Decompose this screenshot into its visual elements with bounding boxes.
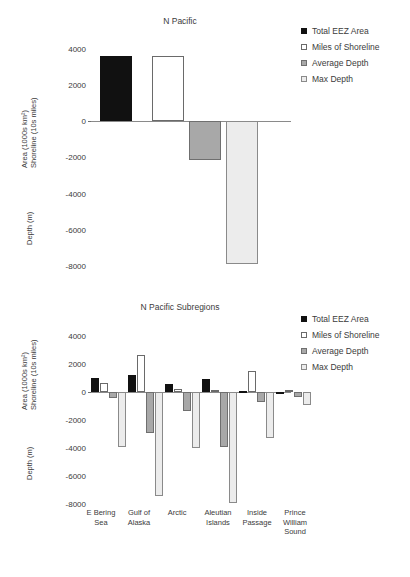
y-axis-label-area-line1: Area (1000s km²) (20, 110, 29, 168)
chart-title-bottom: N Pacific Subregions (100, 302, 260, 312)
legend-swatch-white-icon (301, 44, 307, 50)
y-tick-2000-bottom: 2000 (48, 360, 86, 369)
y-tick-n4000-bottom: -4000 (45, 444, 86, 453)
legend-label: Miles of Shoreline (312, 40, 380, 55)
chart-title-top: N Pacific (100, 16, 260, 26)
bar-miles-of-shoreline-aleutian-islands (211, 390, 219, 392)
legend-item-miles-of-shoreline: Miles of Shoreline (301, 328, 410, 344)
bar-max-depth-e-bering-sea (118, 392, 126, 447)
bar-max-depth-gulf-of-alaska (155, 392, 163, 496)
legend-item-total-eez-area: Total EEZ Area (301, 24, 410, 40)
y-tick-n4000-top: -4000 (45, 190, 86, 199)
bar-average-depth-inside-passage (257, 392, 265, 402)
y-axis-label-area-line2: Shoreline (10s miles) (29, 98, 38, 168)
legend-swatch-gray-icon (301, 60, 307, 66)
legend-item-average-depth: Average Depth (301, 56, 410, 72)
x-axis-label-gulf-of-alaska: Gulf of Alaska (118, 508, 160, 527)
legend-item-total-eez-area: Total EEZ Area (301, 312, 410, 328)
y-axis-label-depth-bottom: Depth (m) (25, 447, 34, 480)
legend-top: Total EEZ Area Miles of Shoreline Averag… (301, 24, 410, 88)
bar-max-depth-n-pacific (226, 121, 258, 264)
y-tick-n2000-top: -2000 (45, 153, 86, 162)
legend-swatch-light-icon (301, 76, 307, 82)
legend-item-max-depth: Max Depth (301, 360, 410, 376)
y-axis-label-area-top: Area (1000s km²) Shoreline (10s miles) (20, 98, 38, 168)
chart-n-pacific: N Pacific Area (1000s km²) Shoreline (10… (0, 0, 410, 290)
x-axis-label-arctic: Arctic (158, 508, 196, 518)
chart-n-pacific-subregions: N Pacific Subregions Area (1000s km²) Sh… (0, 290, 410, 577)
y-tick-4000-top: 4000 (48, 45, 86, 54)
bar-average-depth-e-bering-sea (109, 392, 117, 398)
bar-max-depth-prince-william-sound (303, 392, 311, 405)
bar-miles-of-shoreline-prince-william-sound (285, 390, 293, 392)
legend-label: Miles of Shoreline (312, 328, 380, 343)
legend-item-average-depth: Average Depth (301, 344, 410, 360)
x-axis-label-aleutian-islands: Aleutian Islands (196, 508, 240, 527)
y-tick-0-top: 0 (48, 117, 86, 126)
bar-total-eez-area-aleutian-islands (202, 379, 210, 392)
bar-total-eez-area-n-pacific (100, 56, 132, 121)
legend-label: Average Depth (312, 344, 369, 359)
legend-bottom: Total EEZ Area Miles of Shoreline Averag… (301, 312, 410, 376)
legend-swatch-black-icon (301, 28, 307, 34)
y-tick-0-bottom: 0 (48, 388, 86, 397)
legend-swatch-black-icon (301, 316, 307, 322)
y-tick-4000-bottom: 4000 (48, 332, 86, 341)
bar-average-depth-prince-william-sound (294, 392, 302, 397)
bar-total-eez-area-prince-william-sound (276, 392, 284, 394)
legend-item-max-depth: Max Depth (301, 72, 410, 88)
y-tick-n8000-top: -8000 (45, 262, 86, 271)
bar-total-eez-area-gulf-of-alaska (128, 375, 136, 392)
legend-swatch-white-icon (301, 332, 307, 338)
legend-label: Total EEZ Area (312, 24, 369, 39)
y-axis-label-depth-top: Depth (m) (25, 212, 34, 245)
bar-miles-of-shoreline-n-pacific (152, 56, 184, 121)
bar-miles-of-shoreline-gulf-of-alaska (137, 355, 145, 392)
bar-average-depth-aleutian-islands (220, 392, 228, 447)
x-axis-label-prince-william-sound: Prince William Sound (274, 508, 316, 537)
y-tick-2000-top: 2000 (48, 81, 86, 90)
bar-max-depth-inside-passage (266, 392, 274, 438)
bar-average-depth-arctic (183, 392, 191, 411)
legend-label: Max Depth (312, 360, 353, 375)
bar-total-eez-area-arctic (165, 384, 173, 392)
y-tick-n2000-bottom: -2000 (45, 416, 86, 425)
bar-max-depth-aleutian-islands (229, 392, 237, 503)
legend-label: Total EEZ Area (312, 312, 369, 327)
legend-label: Average Depth (312, 56, 369, 71)
bar-miles-of-shoreline-arctic (174, 389, 182, 392)
x-axis-label-e-bering-sea: E Bering Sea (80, 508, 122, 527)
legend-label: Max Depth (312, 72, 353, 87)
x-axis-label-inside-passage: Inside Passage (236, 508, 278, 527)
y-tick-n6000-top: -6000 (45, 226, 86, 235)
bar-average-depth-n-pacific (189, 121, 221, 160)
legend-swatch-light-icon (301, 364, 307, 370)
bar-total-eez-area-inside-passage (239, 391, 247, 393)
legend-item-miles-of-shoreline: Miles of Shoreline (301, 40, 410, 56)
y-tick-n6000-bottom: -6000 (45, 472, 86, 481)
y-axis-label-area-bottom: Area (1000s km²) Shoreline (10s miles) (20, 340, 38, 410)
bar-average-depth-gulf-of-alaska (146, 392, 154, 433)
bar-miles-of-shoreline-inside-passage (248, 371, 256, 392)
bar-miles-of-shoreline-e-bering-sea (100, 383, 108, 392)
legend-swatch-gray-icon (301, 348, 307, 354)
bar-max-depth-arctic (192, 392, 200, 448)
bar-total-eez-area-e-bering-sea (91, 378, 99, 392)
